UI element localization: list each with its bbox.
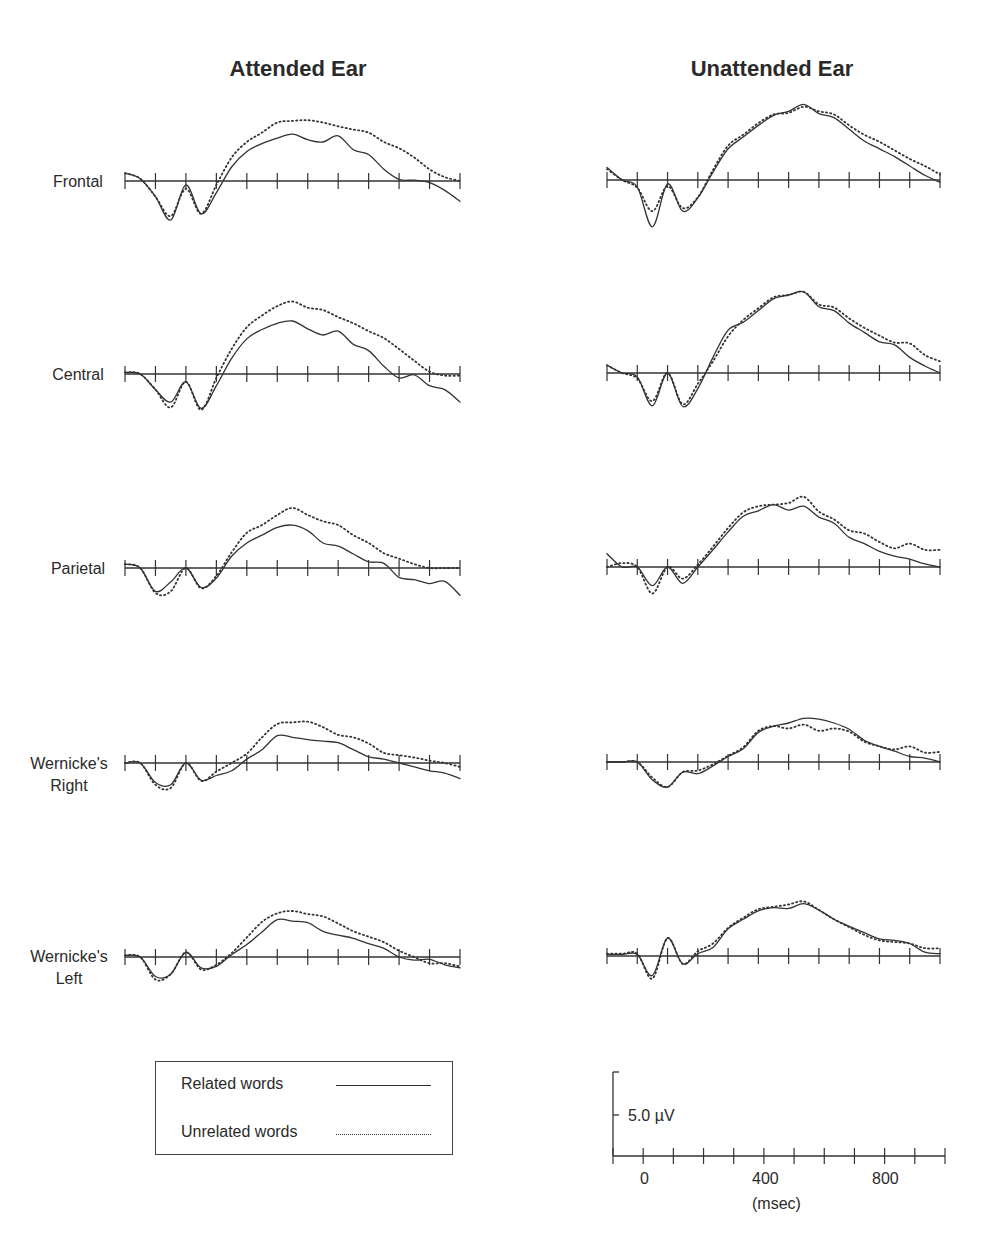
- unrelated-words-trace: [607, 107, 940, 212]
- erp-panel: [607, 104, 940, 227]
- related-words-trace: [607, 904, 940, 976]
- legend-related-label: Related words: [181, 1075, 283, 1093]
- related-words-trace: [125, 525, 460, 595]
- erp-panel: [607, 901, 940, 979]
- erp-panel: [607, 718, 940, 787]
- related-words-trace: [125, 134, 460, 220]
- amplitude-scale-label: 5.0 µV: [628, 1107, 675, 1125]
- x-unit-label: (msec): [752, 1195, 801, 1213]
- erp-panel: [125, 911, 460, 981]
- legend-related-solid-line: [336, 1085, 431, 1086]
- erp-panel: [607, 497, 940, 594]
- related-words-trace: [607, 718, 940, 787]
- related-words-trace: [607, 291, 940, 407]
- unrelated-words-trace: [125, 508, 460, 595]
- x-tick-label-0: 0: [640, 1170, 649, 1188]
- erp-panel: [125, 301, 460, 409]
- legend-box: Related words Unrelated words: [155, 1061, 453, 1155]
- erp-panel: [125, 120, 460, 220]
- legend-unrelated-dotted-line: [336, 1134, 431, 1135]
- related-words-trace: [125, 321, 460, 409]
- erp-panel: [125, 508, 460, 595]
- erp-plot-canvas: [0, 0, 989, 1248]
- related-words-trace: [125, 735, 460, 787]
- related-words-trace: [607, 505, 940, 586]
- related-words-trace: [607, 104, 940, 227]
- unrelated-words-trace: [125, 301, 460, 409]
- unrelated-words-trace: [607, 725, 940, 788]
- erp-panel: [125, 721, 460, 789]
- legend-unrelated-label: Unrelated words: [181, 1123, 298, 1141]
- x-tick-label-800: 800: [872, 1170, 899, 1188]
- unrelated-words-trace: [607, 292, 940, 405]
- x-tick-label-400: 400: [752, 1170, 779, 1188]
- erp-panel: [607, 291, 940, 407]
- unrelated-words-trace: [607, 497, 940, 594]
